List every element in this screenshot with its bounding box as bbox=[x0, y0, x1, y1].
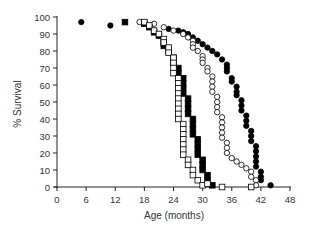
data-point bbox=[185, 35, 190, 40]
x-tick-label: 36 bbox=[226, 194, 237, 205]
x-tick-label: 30 bbox=[197, 194, 208, 205]
data-series bbox=[79, 19, 274, 190]
data-point bbox=[200, 42, 205, 47]
data-point bbox=[210, 89, 215, 94]
data-point bbox=[219, 125, 224, 130]
data-point bbox=[224, 140, 229, 145]
data-point bbox=[181, 31, 186, 36]
data-point bbox=[229, 155, 234, 160]
data-point bbox=[214, 110, 219, 115]
y-tick-label: 100 bbox=[34, 12, 50, 23]
data-point bbox=[248, 133, 253, 138]
data-point bbox=[224, 145, 229, 150]
data-point bbox=[200, 60, 205, 65]
data-point bbox=[268, 183, 273, 188]
x-tick-label: 0 bbox=[54, 194, 59, 205]
data-point bbox=[244, 123, 249, 128]
data-point bbox=[239, 98, 244, 103]
data-point bbox=[219, 184, 225, 190]
x-tick-label: 18 bbox=[139, 194, 150, 205]
y-tick-label: 40 bbox=[39, 114, 50, 125]
x-tick-label: 12 bbox=[110, 194, 121, 205]
data-point bbox=[195, 48, 200, 53]
y-tick-label: 80 bbox=[39, 46, 50, 57]
data-point bbox=[122, 19, 128, 25]
data-point bbox=[229, 79, 234, 84]
data-point bbox=[244, 166, 249, 171]
data-point bbox=[210, 48, 215, 53]
data-point bbox=[210, 79, 215, 84]
data-point bbox=[248, 174, 253, 179]
data-point bbox=[214, 52, 219, 57]
y-tick-label: 30 bbox=[39, 131, 50, 142]
y-tick-label: 20 bbox=[39, 148, 50, 159]
x-tick-label: 6 bbox=[83, 194, 88, 205]
data-point bbox=[253, 178, 258, 183]
data-point bbox=[253, 149, 258, 154]
y-tick-label: 90 bbox=[39, 29, 50, 40]
x-tick-label: 48 bbox=[285, 194, 296, 205]
data-point bbox=[214, 104, 219, 109]
data-point bbox=[190, 45, 195, 50]
data-point bbox=[258, 169, 263, 174]
data-point bbox=[234, 93, 239, 98]
y-axis-title: % Survival bbox=[12, 80, 23, 127]
data-point bbox=[244, 118, 249, 123]
data-point bbox=[224, 69, 229, 74]
data-point bbox=[219, 57, 224, 62]
data-point bbox=[205, 45, 210, 50]
y-tick-label: 50 bbox=[39, 97, 50, 108]
data-point bbox=[248, 169, 253, 174]
data-point bbox=[205, 69, 210, 74]
survival-chart: 0102030405060708090100 0612182430364248 … bbox=[0, 0, 313, 234]
y-tick-label: 60 bbox=[39, 80, 50, 91]
data-point bbox=[239, 108, 244, 113]
data-point bbox=[210, 74, 215, 79]
data-point bbox=[248, 128, 253, 133]
data-point bbox=[239, 103, 244, 108]
data-point bbox=[244, 113, 249, 118]
data-point bbox=[248, 184, 254, 190]
data-point bbox=[214, 99, 219, 104]
data-point bbox=[253, 164, 258, 169]
data-point bbox=[214, 94, 219, 99]
data-point bbox=[219, 115, 224, 120]
data-point bbox=[253, 144, 258, 149]
data-point bbox=[253, 159, 258, 164]
data-point bbox=[171, 28, 176, 33]
data-point bbox=[210, 84, 215, 89]
data-point bbox=[219, 120, 224, 125]
data-point bbox=[224, 150, 229, 155]
x-tick-label: 42 bbox=[256, 194, 267, 205]
data-point bbox=[108, 23, 113, 28]
data-point bbox=[234, 84, 239, 89]
x-tick-label: 24 bbox=[168, 194, 179, 205]
y-tick-label: 70 bbox=[39, 63, 50, 74]
data-point bbox=[253, 154, 258, 159]
data-point bbox=[239, 162, 244, 167]
x-axis-title: Age (months) bbox=[144, 210, 204, 221]
y-tick-label: 0 bbox=[45, 182, 50, 193]
y-tick-label: 10 bbox=[39, 165, 50, 176]
data-point bbox=[248, 138, 253, 143]
data-point bbox=[219, 130, 224, 135]
data-point bbox=[161, 25, 166, 30]
data-point bbox=[205, 181, 211, 187]
data-point bbox=[219, 135, 224, 140]
y-ticks: 0102030405060708090100 bbox=[34, 12, 57, 193]
data-point bbox=[234, 159, 239, 164]
x-ticks: 0612182430364248 bbox=[54, 187, 295, 205]
data-point bbox=[79, 19, 84, 24]
